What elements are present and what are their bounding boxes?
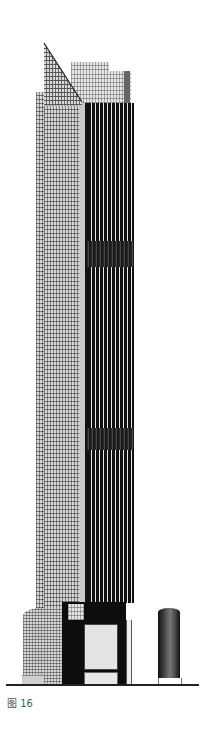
ground-line [6, 684, 199, 686]
dark-band-lower [87, 428, 134, 450]
crown-dark-edge [124, 71, 130, 105]
sloped-spire [40, 40, 85, 106]
podium-mesh-inset [68, 604, 84, 620]
dark-tower-left-frame [85, 103, 88, 613]
elevation-drawing: 图 16 [0, 0, 219, 731]
podium-white-panel [84, 624, 118, 670]
podium-curved-mass [23, 608, 65, 685]
cylindrical-pavilion [158, 608, 180, 678]
podium-right-column [126, 620, 132, 685]
glass-facade-tower [44, 100, 82, 610]
figure-caption: 图 16 [7, 695, 33, 710]
dark-grid-tower [85, 103, 134, 603]
dark-band-upper [87, 241, 134, 267]
